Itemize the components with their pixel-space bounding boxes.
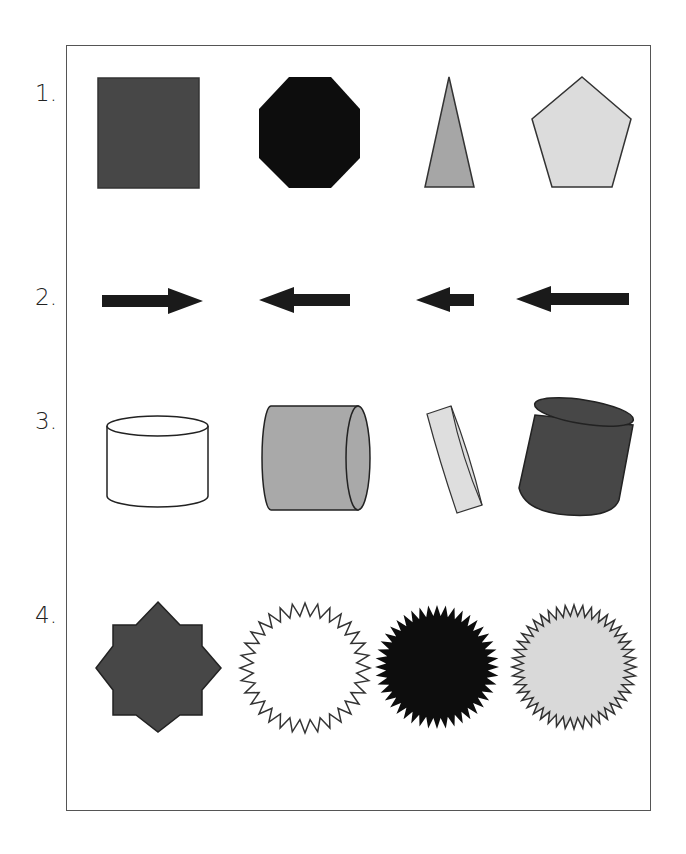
cylinder-upright-shape [107, 416, 208, 507]
arrow-left-shape [259, 287, 350, 313]
arrow-left-short-shape [416, 287, 474, 312]
shapes-canvas [0, 0, 686, 854]
disc-tilted-shape [427, 406, 482, 513]
octagon-shape [259, 77, 360, 188]
starburst-light-shape [512, 605, 636, 729]
row-2-shapes [102, 286, 629, 314]
row-3-shapes [107, 392, 635, 515]
cylinder-horizontal-shape [262, 406, 370, 510]
eight-point-star-shape [96, 602, 221, 732]
pentagon-shape [532, 77, 631, 187]
row-4-shapes [96, 602, 636, 733]
arrow-right-shape [102, 288, 203, 314]
row-1-shapes [98, 77, 631, 188]
triangle-shape [425, 77, 474, 187]
square-shape [98, 78, 199, 188]
arrow-left-long-shape [516, 286, 629, 312]
cylinder-tilted-shape [519, 392, 635, 515]
zigzag-circle-shape [240, 603, 370, 733]
starburst-black-shape [375, 605, 499, 729]
